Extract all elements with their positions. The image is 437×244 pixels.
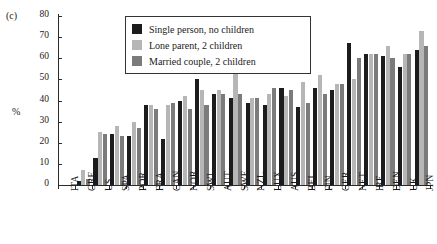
bar xyxy=(340,84,344,185)
bar xyxy=(166,105,170,185)
x-label-cell: GER xyxy=(329,189,346,244)
bar xyxy=(149,105,153,185)
y-tick-label: 70 xyxy=(27,30,49,40)
bar xyxy=(103,134,107,185)
x-label-cell: UK xyxy=(396,189,413,244)
y-tick-label: 40 xyxy=(27,94,49,104)
bar xyxy=(267,94,271,185)
x-label-cell: NOR xyxy=(176,189,193,244)
bar xyxy=(386,46,390,185)
x-tick-label: LUX xyxy=(273,171,283,191)
x-label-cell: SWE xyxy=(227,189,244,244)
bar xyxy=(369,54,373,185)
x-label-cell: US xyxy=(92,189,109,244)
panel-label: (c) xyxy=(6,10,17,21)
bar-group xyxy=(329,16,346,185)
x-label-cell: AUT xyxy=(210,189,227,244)
bar-group xyxy=(58,16,75,185)
legend-swatch-icon xyxy=(132,56,142,66)
bar xyxy=(390,58,394,185)
x-tick-label: JPN xyxy=(425,175,435,191)
x-tick-label: SWE xyxy=(240,170,250,191)
y-tick-label: 30 xyxy=(27,115,49,125)
x-label-cell: SPA xyxy=(109,189,126,244)
x-label-cell: SWI xyxy=(193,189,210,244)
bar xyxy=(415,50,419,185)
x-label-cell: JPN xyxy=(413,189,430,244)
bar xyxy=(217,90,221,185)
bar xyxy=(398,67,402,185)
y-axis-title: % xyxy=(12,106,20,117)
bar xyxy=(284,96,288,185)
bar xyxy=(407,54,411,185)
bar xyxy=(250,98,254,185)
x-label-cell: NZL xyxy=(244,189,261,244)
x-label-cell: FIN xyxy=(312,189,329,244)
legend-swatch-icon xyxy=(132,40,142,50)
x-label-cell: NET xyxy=(345,189,362,244)
bar xyxy=(347,43,351,185)
x-label-cell: AUS xyxy=(278,189,295,244)
bar xyxy=(374,54,378,185)
bar xyxy=(419,31,423,185)
x-label-cell: IRE xyxy=(362,189,379,244)
y-tick-label: 0 xyxy=(27,178,49,188)
y-tick-label: 80 xyxy=(27,9,49,19)
bar xyxy=(330,90,334,185)
bar xyxy=(381,56,385,185)
x-label-cell: FRA xyxy=(143,189,160,244)
bar xyxy=(183,96,187,185)
bar xyxy=(335,84,339,185)
y-tick-label: 20 xyxy=(27,136,49,146)
x-label-cell: POR xyxy=(126,189,143,244)
x-tick-label: NOR xyxy=(189,170,199,191)
bar-group xyxy=(75,16,92,185)
bar xyxy=(357,58,361,185)
y-tick-label: 50 xyxy=(27,72,49,82)
bar xyxy=(313,88,317,185)
bar xyxy=(110,134,114,185)
legend-label: Single person, no children xyxy=(149,24,254,35)
y-tick-label: 60 xyxy=(27,51,49,61)
bar-group xyxy=(312,16,329,185)
x-tick-label: AUT xyxy=(223,171,233,191)
bar-group xyxy=(362,16,379,185)
x-label-cell: CAN xyxy=(159,189,176,244)
x-label-cell: LUX xyxy=(261,189,278,244)
legend-label: Married couple, 2 children xyxy=(149,56,256,67)
bar xyxy=(424,46,428,185)
bar xyxy=(115,126,119,185)
x-label-cell: DEN xyxy=(379,189,396,244)
bar xyxy=(323,94,327,185)
bar xyxy=(200,90,204,185)
x-axis-labels: ITAGREUSSPAPORFRACANNORSWIAUTSWENZLLUXAU… xyxy=(58,189,430,244)
x-label-cell: ITA xyxy=(58,189,75,244)
chart-legend: Single person, no children Lone parent, … xyxy=(125,16,311,74)
legend-swatch-icon xyxy=(132,24,142,34)
bar-group xyxy=(345,16,362,185)
bar xyxy=(81,170,85,185)
x-tick-label: DEN xyxy=(392,171,402,191)
bar xyxy=(364,54,368,185)
bar xyxy=(132,122,136,185)
legend-item: Married couple, 2 children xyxy=(132,53,304,69)
legend-item: Single person, no children xyxy=(132,21,304,37)
chart-figure: (c) % 01020304050607080 ITAGREUSSPAPORFR… xyxy=(0,0,437,244)
bar xyxy=(352,79,356,185)
bar-group xyxy=(413,16,430,185)
bar xyxy=(301,82,305,186)
bar xyxy=(212,94,216,185)
bar xyxy=(98,132,102,185)
bar-group xyxy=(109,16,126,185)
bar-group xyxy=(379,16,396,185)
bar xyxy=(318,75,322,185)
bar-group xyxy=(396,16,413,185)
y-tick-label: 10 xyxy=(27,157,49,167)
x-label-cell: BEL xyxy=(295,189,312,244)
x-label-cell: GRE xyxy=(75,189,92,244)
legend-item: Lone parent, 2 children xyxy=(132,37,304,53)
bar xyxy=(403,54,407,185)
x-tick-label: CAN xyxy=(172,170,182,191)
bar xyxy=(233,73,237,185)
bar-group xyxy=(92,16,109,185)
